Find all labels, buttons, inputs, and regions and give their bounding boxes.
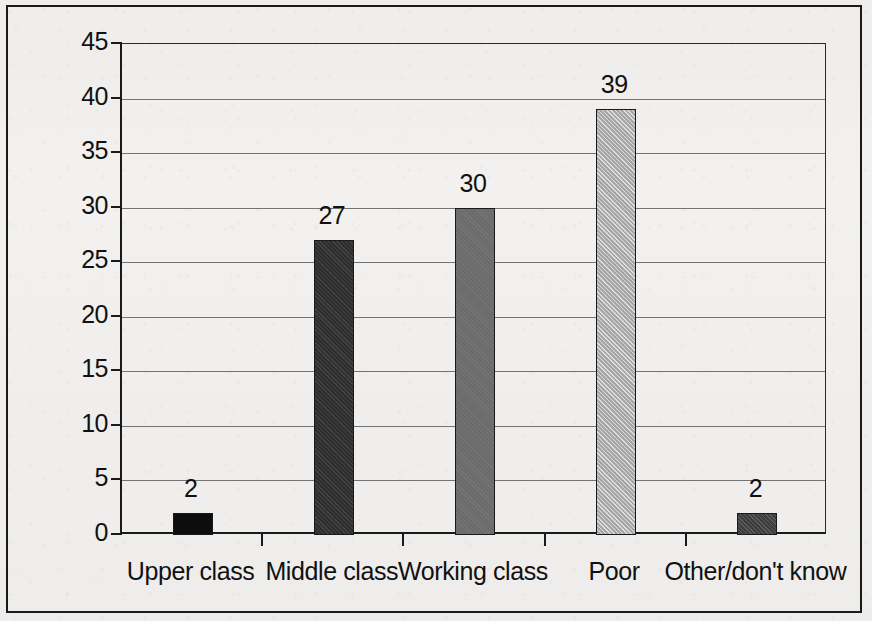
bar[interactable]	[314, 240, 354, 535]
bar[interactable]	[737, 513, 777, 535]
gridline	[122, 99, 825, 100]
gridline	[122, 153, 825, 154]
bar[interactable]	[173, 513, 213, 535]
plot-area	[120, 43, 826, 534]
bar[interactable]	[455, 208, 495, 535]
bar[interactable]	[596, 109, 636, 535]
bar-chart-figure: 051015202530354045 Upper classMiddle cla…	[0, 0, 872, 621]
